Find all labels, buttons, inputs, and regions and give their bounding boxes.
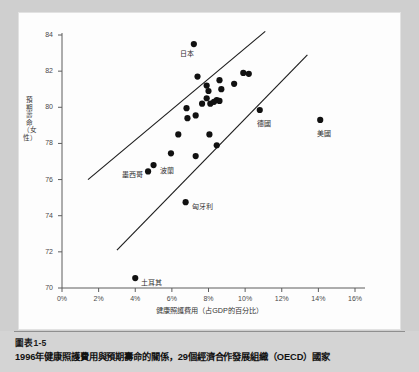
x-tick-label: 2% — [84, 295, 114, 302]
caption-number: 圖表1-5 — [15, 336, 46, 348]
data-point-label: 波蘭 — [160, 165, 174, 175]
data-point-label: 日本 — [180, 48, 194, 58]
y-tick-label: 70 — [31, 284, 53, 291]
x-axis-title: 健康照護費用（占GDP的百分比） — [0, 305, 419, 315]
data-point-label: 墨西哥 — [122, 169, 143, 179]
y-tick-label: 80 — [31, 103, 53, 110]
y-tick-label: 84 — [31, 31, 53, 38]
y-tick-label: 76 — [31, 176, 53, 183]
y-tick-label: 78 — [31, 139, 53, 146]
x-tick-label: 10% — [230, 295, 260, 302]
figure-caption: 圖表1-5 1996年健康照護費用與預期壽命的關係，29個經濟合作發展組織（OE… — [0, 331, 419, 372]
figure-page: 預期壽命（女性） 70727476788082840%2%4%6%8%10%12… — [0, 0, 419, 372]
x-tick-label: 0% — [47, 295, 77, 302]
data-point-label: 德國 — [257, 118, 271, 128]
data-point-label: 土耳其 — [141, 277, 162, 287]
y-tick-label: 74 — [31, 212, 53, 219]
caption-divider — [14, 331, 405, 332]
x-tick-label: 4% — [120, 295, 150, 302]
data-point-label: 匈牙利 — [192, 201, 213, 211]
data-point-label: 美國 — [317, 128, 331, 138]
y-tick-label: 82 — [31, 67, 53, 74]
x-tick-label: 6% — [157, 295, 187, 302]
x-tick-label: 8% — [194, 295, 224, 302]
y-tick-label: 72 — [31, 248, 53, 255]
x-tick-label: 12% — [267, 295, 297, 302]
caption-title: 1996年健康照護費用與預期壽命的關係，29個經濟合作發展組織（OECD）國家 — [15, 349, 415, 363]
x-tick-label: 14% — [303, 295, 333, 302]
plot-overlay: 70727476788082840%2%4%6%8%10%12%14%16%日本… — [0, 0, 419, 372]
x-tick-label: 16% — [340, 295, 370, 302]
